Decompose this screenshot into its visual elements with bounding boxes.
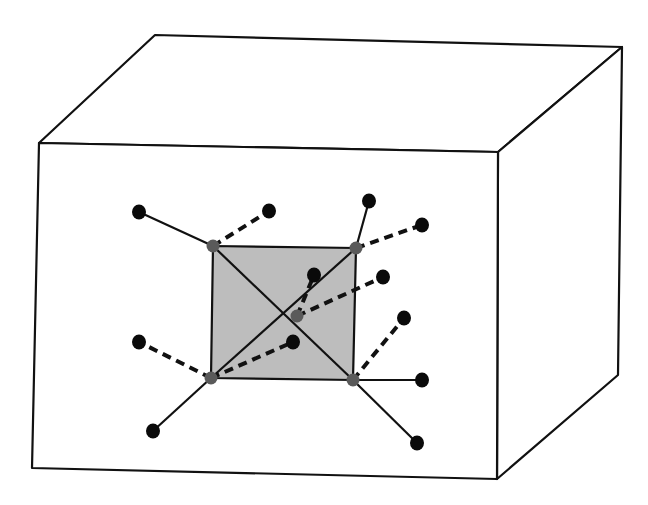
outer-atom	[286, 335, 300, 350]
inner-atom	[205, 372, 218, 385]
outer-atom	[132, 335, 146, 350]
outer-atom	[376, 270, 390, 285]
outer-atom	[146, 424, 160, 439]
inner-atom	[207, 240, 220, 253]
outer-atom	[132, 205, 146, 220]
outer-atom	[397, 311, 411, 326]
cube-lattice-diagram	[0, 0, 648, 505]
outer-atom	[362, 194, 376, 209]
inner-atom	[347, 374, 360, 387]
inner-atom	[350, 242, 363, 255]
outer-atom	[415, 218, 429, 233]
outer-atom	[262, 204, 276, 219]
outer-atom	[415, 373, 429, 388]
outer-atom	[410, 436, 424, 451]
inner-atom	[291, 310, 304, 323]
outer-atom	[307, 268, 321, 283]
diagram-canvas	[0, 0, 648, 505]
